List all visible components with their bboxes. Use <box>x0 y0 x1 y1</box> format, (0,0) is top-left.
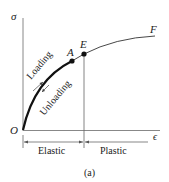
x-axis-label: ϵ <box>153 131 158 142</box>
caption: (a) <box>84 167 95 179</box>
point-e <box>81 51 86 56</box>
elastic-arrowhead-left <box>24 141 28 144</box>
y-axis-label: σ <box>11 10 17 22</box>
elastic-arrowhead-right <box>79 141 83 144</box>
point-f-label: F <box>149 23 157 35</box>
plastic-curve <box>84 36 155 54</box>
elastic-label: Elastic <box>38 145 66 156</box>
stress-strain-diagram: σ ϵ O A E F Loading Unloading Elastic Pl… <box>0 0 169 182</box>
point-a <box>69 58 74 63</box>
point-a-label: A <box>66 46 74 58</box>
point-e-label: E <box>79 38 87 50</box>
origin-label: O <box>10 124 18 136</box>
plastic-arrowhead-left <box>85 141 89 144</box>
plastic-label: Plastic <box>100 145 127 156</box>
